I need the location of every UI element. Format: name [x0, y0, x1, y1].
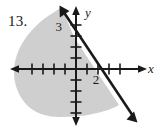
y-intercept-label: 3: [56, 19, 63, 34]
figure-container: 13.: [0, 0, 163, 133]
x-axis-right-arrowhead: [138, 65, 147, 73]
x-axis-label: x: [147, 61, 154, 76]
y-axis-top-arrowhead: [72, 6, 80, 15]
y-axis-label: y: [83, 5, 91, 20]
x-intercept-label: 2: [93, 72, 100, 87]
shaded-solution-region: [14, 8, 119, 118]
graph-svg: 3 2 x y: [0, 0, 163, 133]
y-axis-bottom-arrowhead: [72, 117, 80, 126]
